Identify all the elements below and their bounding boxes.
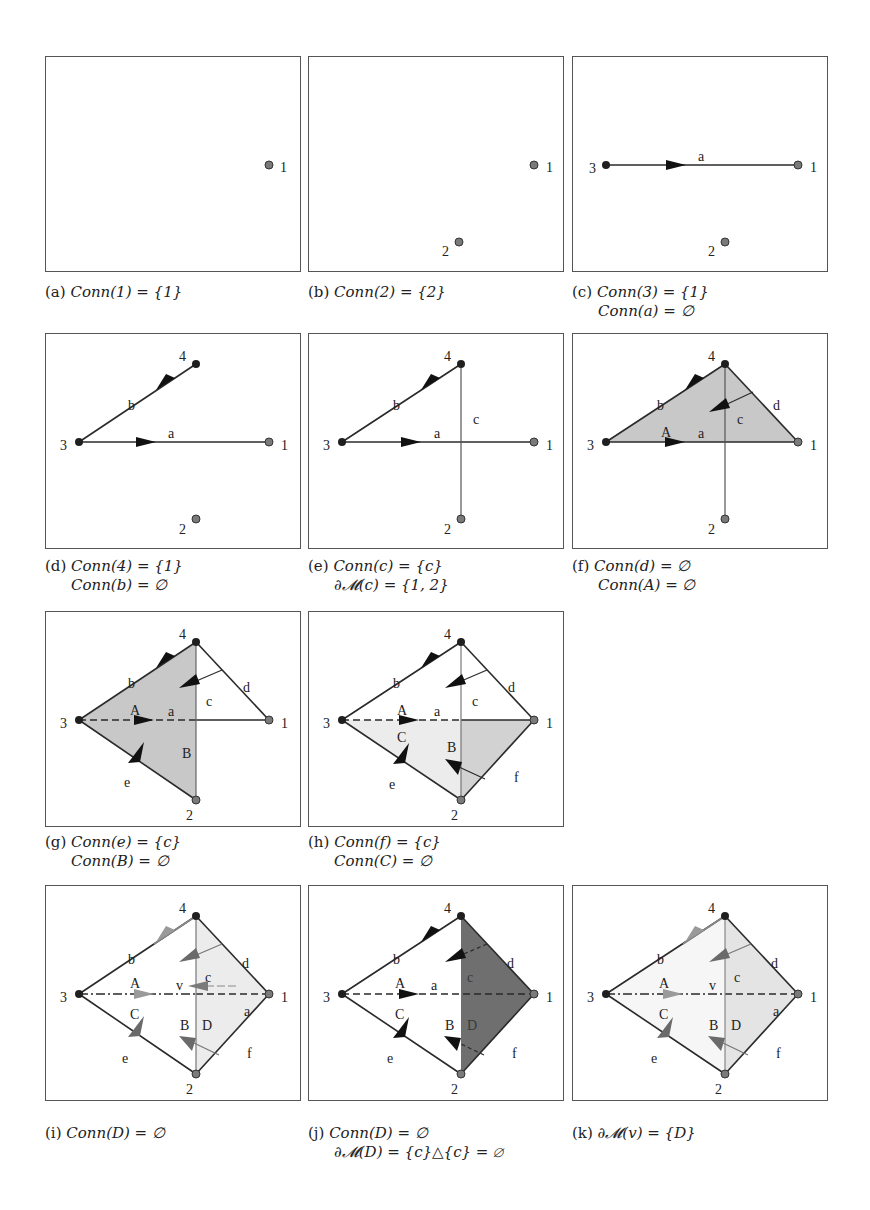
svg-text:A: A bbox=[130, 976, 141, 991]
svg-text:B: B bbox=[445, 1018, 454, 1033]
svg-text:a: a bbox=[698, 149, 705, 164]
diagram-f: a b d c A 3 4 1 2 bbox=[573, 334, 827, 548]
vertex-4 bbox=[457, 912, 465, 920]
svg-text:e: e bbox=[651, 1051, 657, 1066]
caption-c: (c) Conn(3) = {1} Conn(a) = ∅ bbox=[572, 283, 709, 321]
vertex-3 bbox=[338, 716, 346, 724]
svg-text:b: b bbox=[128, 676, 135, 691]
vertex-3 bbox=[338, 438, 346, 446]
svg-text:v: v bbox=[709, 978, 716, 993]
vertex-1 bbox=[265, 438, 273, 446]
vertex-4 bbox=[192, 360, 200, 368]
panel-c: a 3 1 2 bbox=[572, 56, 828, 272]
vertex-1 bbox=[794, 990, 802, 998]
svg-text:4: 4 bbox=[444, 627, 451, 642]
svg-text:f: f bbox=[514, 770, 519, 785]
svg-text:1: 1 bbox=[281, 990, 288, 1005]
svg-text:e: e bbox=[387, 1051, 393, 1066]
edge-b bbox=[79, 364, 196, 442]
vertex-2 bbox=[721, 238, 729, 246]
svg-text:1: 1 bbox=[281, 716, 288, 731]
svg-text:C: C bbox=[397, 730, 406, 745]
arrow-icon bbox=[156, 374, 175, 390]
face-D bbox=[725, 916, 798, 1074]
diagram-e: a b c 3 4 1 2 bbox=[309, 334, 563, 548]
caption-g: (g) Conn(e) = {c} Conn(B) = ∅ bbox=[45, 833, 181, 871]
diagram-h: a b d c e f A C B 3 4 1 2 bbox=[309, 612, 563, 826]
arrow-icon bbox=[666, 160, 686, 170]
svg-text:b: b bbox=[128, 398, 135, 413]
arrow-icon bbox=[179, 1036, 196, 1051]
caption-a-line1: Conn(1) = {1} bbox=[70, 283, 182, 301]
svg-text:4: 4 bbox=[179, 349, 186, 364]
svg-text:v: v bbox=[176, 978, 183, 993]
vertex-1 bbox=[794, 438, 802, 446]
panel-i: a b d c v e f A C B D 3 4 1 2 bbox=[45, 885, 301, 1101]
svg-text:3: 3 bbox=[60, 716, 67, 731]
svg-text:c: c bbox=[467, 970, 473, 985]
svg-text:d: d bbox=[243, 680, 250, 695]
svg-text:3: 3 bbox=[323, 990, 330, 1005]
svg-text:D: D bbox=[202, 1018, 212, 1033]
svg-text:c: c bbox=[734, 970, 740, 985]
vertex-1 bbox=[530, 990, 538, 998]
diagram-i: a b d c v e f A C B D 3 4 1 2 bbox=[46, 886, 300, 1100]
svg-text:d: d bbox=[771, 956, 778, 971]
svg-text:B: B bbox=[180, 1018, 189, 1033]
caption-f: (f) Conn(d) = ∅ Conn(A) = ∅ bbox=[572, 557, 695, 595]
diagram-j: a b d c e f A C B D 3 4 1 2 bbox=[309, 886, 563, 1100]
svg-text:1: 1 bbox=[546, 716, 553, 731]
vertex-2 bbox=[457, 1070, 465, 1078]
svg-text:4: 4 bbox=[179, 627, 186, 642]
svg-text:2: 2 bbox=[715, 1082, 722, 1097]
edge-b bbox=[342, 364, 461, 442]
vertex-3 bbox=[338, 990, 346, 998]
vertex-1-label: 1 bbox=[280, 160, 287, 175]
caption-a: (a) Conn(1) = {1} bbox=[45, 283, 182, 302]
svg-text:3: 3 bbox=[60, 438, 67, 453]
svg-text:b: b bbox=[393, 398, 400, 413]
vertex-4 bbox=[192, 912, 200, 920]
svg-text:c: c bbox=[472, 694, 478, 709]
caption-k: (k) ∂𝓜(v) = {D} bbox=[572, 1124, 696, 1143]
caption-e: (e) Conn(c) = {c} ∂𝓜(c) = {1, 2} bbox=[308, 557, 449, 595]
vertex-1 bbox=[530, 161, 538, 169]
svg-text:e: e bbox=[124, 775, 130, 790]
svg-text:2: 2 bbox=[444, 522, 451, 537]
svg-text:a: a bbox=[168, 704, 175, 719]
vertex-2 bbox=[192, 515, 200, 523]
svg-text:a: a bbox=[434, 704, 441, 719]
vertex-3 bbox=[602, 161, 610, 169]
svg-text:A: A bbox=[659, 976, 670, 991]
panel-f: a b d c A 3 4 1 2 bbox=[572, 333, 828, 549]
diagram-d: a b 3 4 1 2 bbox=[46, 334, 300, 548]
svg-text:2: 2 bbox=[442, 244, 449, 259]
vertex-1 bbox=[530, 716, 538, 724]
svg-text:e: e bbox=[122, 1051, 128, 1066]
svg-text:1: 1 bbox=[546, 438, 553, 453]
panel-d: a b 3 4 1 2 bbox=[45, 333, 301, 549]
svg-text:1: 1 bbox=[810, 438, 817, 453]
svg-text:f: f bbox=[512, 1046, 517, 1061]
face-D bbox=[196, 916, 269, 1074]
vertex-2 bbox=[192, 1070, 200, 1078]
arrow-icon bbox=[421, 926, 440, 942]
vertex-1 bbox=[794, 161, 802, 169]
svg-text:C: C bbox=[659, 1007, 668, 1022]
svg-text:3: 3 bbox=[323, 438, 330, 453]
svg-text:2: 2 bbox=[179, 522, 186, 537]
svg-text:1: 1 bbox=[810, 990, 817, 1005]
svg-text:2: 2 bbox=[186, 808, 193, 823]
svg-text:d: d bbox=[508, 680, 515, 695]
svg-text:A: A bbox=[397, 703, 408, 718]
panel-b: 1 2 bbox=[308, 56, 564, 272]
arrow-icon bbox=[444, 1036, 461, 1051]
panel-g: a b d c e A B 3 4 1 2 bbox=[45, 611, 301, 827]
panel-k: a b d c v e f A C B D 3 4 1 2 bbox=[572, 885, 828, 1101]
diagram-a: 1 bbox=[46, 57, 300, 271]
svg-text:4: 4 bbox=[708, 349, 715, 364]
vertex-4 bbox=[457, 360, 465, 368]
arrow-icon bbox=[421, 652, 440, 668]
svg-text:1: 1 bbox=[281, 438, 288, 453]
svg-text:2: 2 bbox=[708, 522, 715, 537]
